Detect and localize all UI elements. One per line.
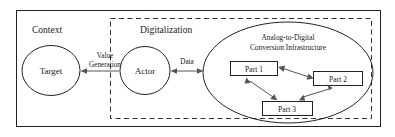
- section-label-context: Context: [32, 25, 62, 35]
- edge-part1-part3-line: [250, 81, 273, 97]
- edge-label-value-generation-line2: Generation: [89, 61, 121, 69]
- edge-value-generation-arrowhead: [81, 68, 88, 74]
- node-label-infrastructure-line1: Analog-to-Digital: [262, 33, 315, 42]
- diagram-svg: Context Digitalization Target Actor Valu…: [0, 0, 395, 137]
- section-label-digitalization: Digitalization: [140, 25, 192, 35]
- diagram-canvas: Context Digitalization Target Actor Valu…: [0, 0, 395, 137]
- edge-data-arrowhead-left: [171, 68, 178, 74]
- edge-part2-part3-arrowhead-bottom: [299, 95, 305, 101]
- edge-part1-part2-arrowhead-right: [307, 74, 314, 80]
- node-label-part1: Part 1: [245, 65, 263, 74]
- edge-label-data: Data: [180, 58, 194, 66]
- edge-part2-part3-line: [303, 89, 329, 97]
- edge-part1-part3-arrowhead-top: [245, 78, 251, 84]
- node-label-infrastructure-line2: Conversion Infrastructure: [250, 43, 327, 52]
- edge-part1-part2-arrowhead-left: [278, 66, 285, 72]
- edge-part1-part3-arrowhead-bottom: [270, 94, 277, 100]
- node-label-part2: Part 2: [329, 75, 347, 84]
- node-label-target: Target: [40, 66, 63, 76]
- node-label-actor: Actor: [135, 66, 156, 76]
- node-label-part3: Part 3: [278, 105, 296, 114]
- edge-part1-part2-line: [283, 69, 309, 78]
- context-container: [17, 11, 381, 127]
- edge-label-value-generation-line1: Value: [97, 52, 113, 60]
